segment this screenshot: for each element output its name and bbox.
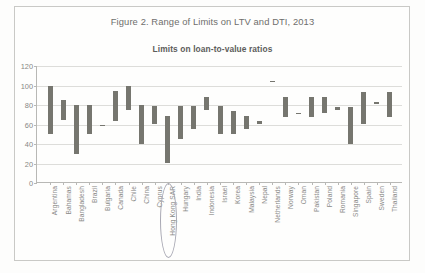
x-axis-tick-mark: [377, 182, 378, 185]
x-axis-label: Canada: [117, 186, 124, 210]
bar: [152, 106, 157, 125]
x-axis-tick-mark: [89, 182, 90, 185]
bar: [283, 97, 288, 117]
bar: [113, 91, 118, 120]
x-axis-tick-mark: [325, 182, 326, 185]
x-axis-label: Norway: [287, 186, 294, 209]
x-axis-label: Poland: [326, 186, 333, 207]
x-axis-label: Argentina: [51, 186, 58, 215]
x-axis-tick-mark: [312, 182, 313, 185]
bar: [74, 105, 79, 154]
scanned-page: Figure 2. Range of Limits on LTV and DTI…: [0, 0, 425, 273]
plot-area: 020406080100120: [36, 66, 402, 183]
x-axis-tick-mark: [115, 182, 116, 185]
bar: [374, 102, 379, 104]
x-axis-label: Indonesia: [208, 186, 215, 216]
x-axis-tick-mark: [259, 182, 260, 185]
x-axis-tick-mark: [63, 182, 64, 185]
x-axis-label: Spain: [365, 186, 372, 203]
bar: [244, 116, 249, 130]
x-axis-labels: ArgentinaBahamasBangladeshBrazilBulgaria…: [36, 186, 402, 261]
bar: [322, 97, 327, 113]
x-axis-tick-mark: [351, 182, 352, 185]
x-axis-label: Hong Kong SAR: [169, 186, 176, 236]
x-axis-tick-mark: [194, 182, 195, 185]
bar: [204, 97, 209, 110]
bar: [48, 86, 53, 135]
bar: [87, 105, 92, 134]
bar: [191, 106, 196, 129]
bar-series: [37, 66, 402, 182]
y-axis-tick-label: 80: [25, 101, 33, 110]
x-axis-label: Sweden: [378, 186, 385, 210]
bar: [348, 107, 353, 144]
x-axis-tick-mark: [168, 182, 169, 185]
figure-caption: Figure 2. Range of Limits on LTV and DTI…: [0, 16, 425, 27]
x-axis-tick-mark: [246, 182, 247, 185]
chart-plot: 020406080100120: [36, 66, 402, 183]
y-axis-tick-label: 20: [25, 159, 33, 168]
x-axis-label: Romania: [339, 186, 346, 213]
bar: [61, 100, 66, 120]
x-axis-label: Nepal: [261, 186, 268, 204]
x-axis-label: Cyprus: [156, 186, 163, 208]
bar: [309, 97, 314, 117]
x-axis-label: Brazil: [91, 186, 98, 203]
chart-title: Limits on loan-to-value ratios: [0, 44, 425, 54]
bar: [178, 106, 183, 139]
y-axis-tick-label: 120: [21, 62, 33, 71]
x-axis-tick-mark: [233, 182, 234, 185]
y-axis-tick-label: 100: [21, 81, 33, 90]
x-axis-tick-mark: [181, 182, 182, 185]
x-axis-label: Malaysia: [248, 186, 255, 213]
x-axis-label: China: [143, 186, 150, 204]
y-axis-tick-label: 40: [25, 140, 33, 149]
x-axis-tick-mark: [298, 182, 299, 185]
bar: [361, 92, 366, 124]
bar: [231, 111, 236, 134]
bar: [100, 125, 105, 127]
bar: [387, 92, 392, 116]
x-axis-tick-mark: [102, 182, 103, 185]
y-axis-tick-label: 0: [29, 179, 33, 188]
x-axis-label: Korea: [234, 186, 241, 204]
bar: [335, 107, 340, 110]
x-axis-label: Bangladesh: [78, 186, 85, 222]
x-axis-tick-mark: [338, 182, 339, 185]
x-axis-label: Bulgaria: [104, 186, 111, 211]
x-axis-label: India: [195, 186, 202, 201]
bar: [257, 121, 262, 125]
x-axis-label: Chile: [130, 186, 137, 202]
bar: [218, 106, 223, 134]
x-axis-tick-mark: [142, 182, 143, 185]
x-axis-label: Hungary: [182, 186, 189, 212]
bar: [270, 81, 275, 83]
x-axis-tick-mark: [220, 182, 221, 185]
bar: [139, 105, 144, 144]
x-axis-tick-mark: [76, 182, 77, 185]
x-axis-tick-mark: [50, 182, 51, 185]
bar: [126, 86, 131, 109]
x-axis-label: Pakistan: [313, 186, 320, 212]
bar: [165, 116, 170, 164]
x-axis-label: Israel: [221, 186, 228, 203]
x-axis-label: Thailand: [391, 186, 398, 212]
x-axis-tick-mark: [390, 182, 391, 185]
x-axis-label: Bahamas: [65, 186, 72, 215]
x-axis-tick-mark: [272, 182, 273, 185]
bar: [296, 113, 301, 115]
x-axis-label: Singapore: [352, 186, 359, 217]
x-axis-label: Oman: [300, 186, 307, 204]
x-axis-label: Netherlands: [274, 186, 281, 223]
x-axis-tick-mark: [285, 182, 286, 185]
y-axis-tick-mark: [34, 183, 37, 184]
x-axis-tick-mark: [364, 182, 365, 185]
y-axis-tick-label: 60: [25, 120, 33, 129]
